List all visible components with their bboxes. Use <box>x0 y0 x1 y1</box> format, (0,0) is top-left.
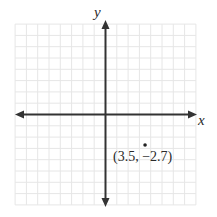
x-axis-label: x <box>197 112 205 128</box>
coordinate-plane: x y (3.5, −2.7) <box>0 0 217 217</box>
data-point <box>143 143 147 147</box>
y-axis-down-arrow-icon <box>102 198 110 207</box>
y-axis-label: y <box>92 4 101 20</box>
x-axis-left-arrow-icon <box>15 111 24 119</box>
axes <box>15 20 197 207</box>
point-label: (3.5, −2.7) <box>113 149 173 165</box>
